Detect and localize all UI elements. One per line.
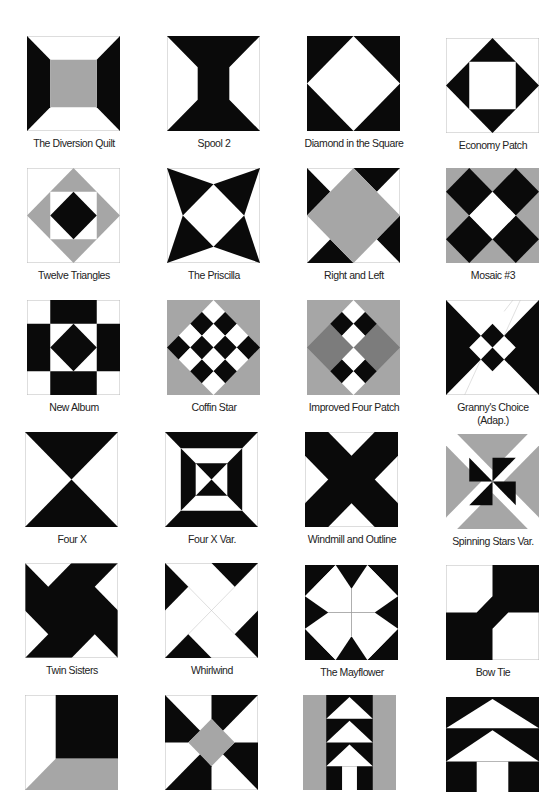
block-caption: Right and Left xyxy=(289,269,419,282)
mosaic-3-pattern xyxy=(446,168,539,263)
quilt-block-diversion-quilt: The Diversion Quilt xyxy=(27,36,120,150)
block-caption: Four X Var. xyxy=(147,533,277,546)
the-mayflower-pattern xyxy=(305,565,398,660)
right-and-left-pattern xyxy=(307,168,400,263)
coffin-star-pattern xyxy=(167,300,260,395)
diversion-quilt-pattern xyxy=(27,36,120,131)
quilt-block-new-album: New Album xyxy=(27,300,120,414)
block-caption: Granny's Choice (Adap.) xyxy=(428,401,542,427)
block-caption: Economy Patch xyxy=(428,139,542,152)
block-caption: Twin Sisters xyxy=(7,664,137,677)
economy-patch-pattern xyxy=(446,38,539,133)
quilt-block-spinning-stars-var: Spinning Stars Var. xyxy=(446,434,539,548)
block-caption: Bow Tie xyxy=(428,666,542,679)
quilt-block-the-priscilla: The Priscilla xyxy=(167,168,260,282)
quilt-block-the-mayflower: The Mayflower xyxy=(305,565,398,679)
quilt-block-row6-1 xyxy=(25,695,118,790)
quilt-block-four-x: Four X xyxy=(25,432,118,546)
quilt-block-mosaic-3: Mosaic #3 xyxy=(446,168,539,282)
row6-1-pattern xyxy=(25,695,118,790)
quilt-block-row6-4 xyxy=(446,697,539,792)
quilt-block-four-x-var: Four X Var. xyxy=(165,432,258,546)
block-caption: Windmill and Outline xyxy=(287,533,417,546)
diamond-in-the-square-pattern xyxy=(307,36,400,131)
quilt-block-improved-four-patch: Improved Four Patch xyxy=(307,300,400,414)
improved-four-patch-pattern xyxy=(307,300,400,395)
block-caption: The Mayflower xyxy=(287,666,417,679)
block-caption: Spinning Stars Var. xyxy=(428,535,542,548)
quilt-block-economy-patch: Economy Patch xyxy=(446,38,539,152)
bow-tie-pattern xyxy=(446,565,539,660)
quilt-block-whirlwind: Whirlwind xyxy=(165,563,258,677)
quilt-block-row6-2 xyxy=(165,695,258,790)
spool-2-pattern xyxy=(167,36,260,131)
spinning-stars-var-pattern xyxy=(446,434,539,529)
caption-line: Granny's Choice xyxy=(428,401,542,414)
twelve-triangles-pattern xyxy=(27,168,120,263)
block-caption: The Priscilla xyxy=(149,269,279,282)
block-caption: Coffin Star xyxy=(149,401,279,414)
row6-2-pattern xyxy=(165,695,258,790)
quilt-block-coffin-star: Coffin Star xyxy=(167,300,260,414)
block-caption: Four X xyxy=(7,533,137,546)
whirlwind-pattern xyxy=(165,563,258,658)
block-caption: Improved Four Patch xyxy=(289,401,419,414)
twin-sisters-pattern xyxy=(25,563,118,658)
the-priscilla-pattern xyxy=(167,168,260,263)
quilt-block-row6-3 xyxy=(303,695,396,790)
block-caption: The Diversion Quilt xyxy=(9,137,139,150)
block-caption: Twelve Triangles xyxy=(9,269,139,282)
quilt-block-bow-tie: Bow Tie xyxy=(446,565,539,679)
quilt-block-windmill-and-outline: Windmill and Outline xyxy=(305,432,398,546)
row6-4-pattern xyxy=(446,697,539,792)
caption-sub: (Adap.) xyxy=(428,414,542,427)
grannys-choice-pattern xyxy=(446,300,539,395)
quilt-block-twelve-triangles: Twelve Triangles xyxy=(27,168,120,282)
new-album-pattern xyxy=(27,300,120,395)
four-x-pattern xyxy=(25,432,118,527)
block-caption: New Album xyxy=(9,401,139,414)
quilt-block-twin-sisters: Twin Sisters xyxy=(25,563,118,677)
row6-3-pattern xyxy=(303,695,396,790)
quilt-block-right-and-left: Right and Left xyxy=(307,168,400,282)
quilt-block-diamond-in-the-square: Diamond in the Square xyxy=(307,36,400,150)
block-caption: Spool 2 xyxy=(149,137,279,150)
block-caption: Mosaic #3 xyxy=(428,269,542,282)
block-caption: Diamond in the Square xyxy=(289,137,419,150)
quilt-block-grannys-choice: Granny's Choice (Adap.) xyxy=(446,300,539,427)
four-x-var-pattern xyxy=(165,432,258,527)
block-caption: Whirlwind xyxy=(147,664,277,677)
windmill-and-outline-pattern xyxy=(305,432,398,527)
quilt-block-spool-2: Spool 2 xyxy=(167,36,260,150)
